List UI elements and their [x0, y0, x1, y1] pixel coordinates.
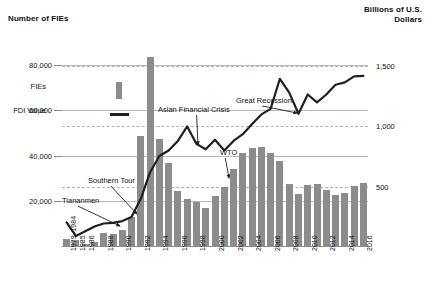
x-tick-label: 2012 [329, 235, 336, 251]
tick-dash [54, 201, 62, 202]
x-tick-label: 1998 [199, 235, 206, 251]
x-tick-label: 1988 [107, 235, 114, 251]
x-tick-label: 2006 [274, 235, 281, 251]
x-tick-label: 2010 [311, 235, 318, 251]
x-tick-label: 2004 [255, 235, 262, 251]
chart-container: Number of FIEs Billions of U.S. Dollars … [0, 0, 427, 298]
y-tick-right: 500 [376, 183, 418, 192]
x-tick-label: 1994 [162, 235, 169, 251]
annotation-label: Great Recession [236, 96, 292, 105]
fdi-value-polyline [67, 76, 364, 236]
legend-swatch-line [110, 113, 129, 116]
x-tick-label: 1990 [125, 235, 132, 251]
x-tick-label: 2002 [237, 235, 244, 251]
annotation-label: Asian Financial Crisis [158, 105, 230, 114]
x-tick-label: 2014 [348, 235, 355, 251]
x-tick-label: 1986 [88, 235, 95, 251]
legend-swatch-bar [116, 82, 122, 99]
x-tick-label: 2008 [292, 235, 299, 251]
tick-dash [54, 156, 62, 157]
right-axis-title: Billions of U.S. Dollars [352, 5, 422, 25]
annotation-label: Southern Tour [88, 176, 135, 185]
x-tick-label: 2016 [366, 235, 373, 251]
y-tick-right: 1,000 [376, 122, 418, 131]
y-tick-left: 80,000 [10, 61, 52, 70]
tick-dash [54, 110, 62, 111]
tick-dash [54, 65, 62, 66]
x-tick-label: 1996 [181, 235, 188, 251]
y-tick-left: 40,000 [10, 152, 52, 161]
x-tick-label: 2000 [218, 235, 225, 251]
left-axis-title: Number of FIEs [8, 14, 69, 24]
plot-area [62, 42, 368, 247]
legend-label-fies: FIEs [31, 82, 46, 91]
x-tick-label: 1979–1984 [70, 216, 77, 251]
annotation-label: WTO [220, 148, 237, 157]
y-tick-left: 20,000 [10, 197, 52, 206]
legend-label-fdi-value: FDI Value [13, 106, 46, 115]
x-tick-label: 1992 [144, 235, 151, 251]
annotation-label: Tiananmen [62, 196, 99, 205]
y-tick-right: 1,500 [376, 62, 418, 71]
x-tick-label: 1985 [79, 235, 86, 251]
line-series-fdi-value [62, 42, 368, 247]
